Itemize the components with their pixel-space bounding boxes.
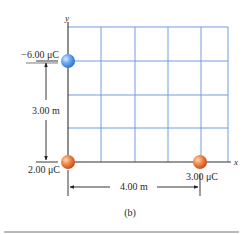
charge-negative-6uC xyxy=(61,54,75,68)
grid xyxy=(68,27,228,162)
charge-label-q1: −6.00 μC xyxy=(21,49,59,60)
figure-caption: (b) xyxy=(124,207,136,219)
charge-label-q3: 3.00 μC xyxy=(186,171,218,182)
vertical-dimension-label: 3.00 m xyxy=(32,105,60,116)
charge-diagram: y x 3.00 m 4.00 m −6.00 μC 2.00 μC 3.00 … xyxy=(0,0,246,234)
y-axis-label: y xyxy=(64,13,69,23)
x-axis-label: x xyxy=(233,157,238,167)
charge-3uC xyxy=(193,155,207,169)
axes xyxy=(68,22,231,162)
horizontal-dimension-label: 4.00 m xyxy=(120,181,148,192)
charge-label-q2: 2.00 μC xyxy=(28,164,60,175)
charge-2uC xyxy=(61,155,75,169)
